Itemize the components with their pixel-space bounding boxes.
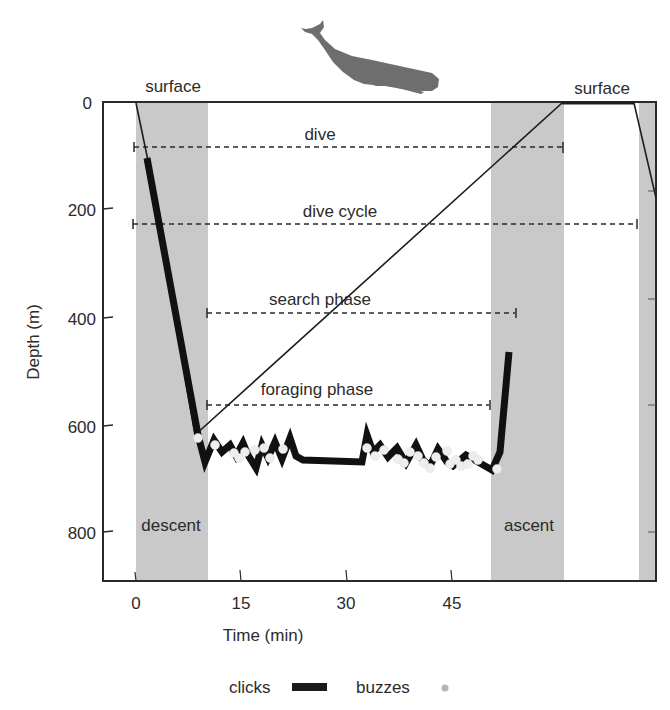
x-tick-0: 0 [131, 594, 140, 613]
y-tick-800: 800 [68, 524, 96, 543]
dive-cycle-label: dive cycle [303, 202, 378, 221]
ascent-label: ascent [504, 516, 554, 535]
foraging-phase-label: foraging phase [261, 380, 373, 399]
dive-profile-chart: 0 200 400 600 800 Depth (m) 0 15 30 45 T… [0, 0, 670, 710]
next-descent-region [639, 102, 656, 581]
surface-label-right: surface [574, 79, 630, 98]
search-phase-interval [207, 308, 516, 318]
legend-clicks-marker [292, 683, 327, 691]
shaded-regions [136, 102, 656, 581]
dive-profile-line [136, 103, 656, 435]
y-tick-200: 200 [68, 201, 96, 220]
ascent-region [491, 102, 564, 581]
interval-labels: dive dive cycle search phase foraging ph… [261, 125, 378, 399]
x-tick-15: 15 [232, 594, 251, 613]
foraging-phase-interval [207, 400, 490, 410]
x-tick-30: 30 [337, 594, 356, 613]
x-tick-45: 45 [443, 594, 462, 613]
y-tick-0: 0 [83, 94, 92, 113]
search-phase-label: search phase [269, 290, 371, 309]
surface-label-left: surface [145, 77, 201, 96]
y-axis-label: Depth (m) [24, 304, 43, 380]
legend-buzzes-label: buzzes [356, 678, 410, 697]
legend-buzzes-marker [442, 685, 449, 692]
legend: clicks buzzes [229, 678, 449, 697]
dive-label: dive [304, 125, 335, 144]
x-axis-label: Time (min) [223, 626, 304, 645]
legend-clicks-label: clicks [229, 678, 271, 697]
sperm-whale-icon [301, 20, 439, 94]
y-tick-400: 400 [68, 310, 96, 329]
y-tick-600: 600 [68, 418, 96, 437]
descent-label: descent [141, 516, 201, 535]
x-tick-labels: 0 15 30 45 [131, 594, 461, 613]
y-tick-labels: 0 200 400 600 800 [68, 94, 96, 543]
